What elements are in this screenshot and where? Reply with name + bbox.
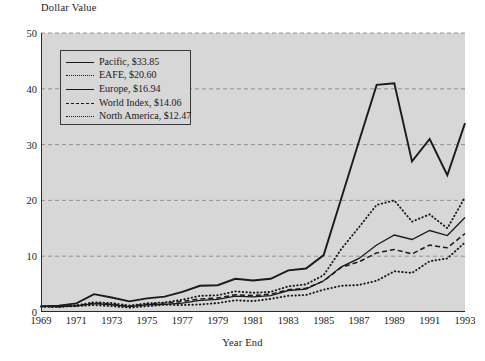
legend-item: Pacific, $33.85 (66, 55, 185, 69)
x-tick-1985: 1985 (313, 315, 334, 326)
line-chart: Dollar Value 01020304050 196919711973197… (0, 0, 485, 361)
legend-line-swatch-icon (66, 111, 94, 121)
y-tick-20: 20 (13, 195, 37, 206)
legend-line-swatch-icon (66, 70, 94, 80)
x-tick-1973: 1973 (101, 315, 122, 326)
x-tick-1975: 1975 (137, 315, 158, 326)
x-tick-1993: 1993 (455, 315, 476, 326)
x-tick-1989: 1989 (384, 315, 405, 326)
x-tick-1969: 1969 (31, 315, 52, 326)
legend-line-swatch-icon (66, 57, 94, 67)
legend-item-label: World Index, $14.06 (99, 98, 182, 108)
legend-item: EAFE, $20.60 (66, 69, 185, 83)
legend-item: World Index, $14.06 (66, 96, 185, 110)
legend: Pacific, $33.85EAFE, $20.60Europe, $16.9… (60, 50, 191, 125)
legend-item-label: Europe, $16.94 (99, 84, 160, 94)
legend-line-swatch-icon (66, 84, 94, 94)
y-tick-40: 40 (13, 83, 37, 94)
legend-item-label: North America, $12.47 (99, 111, 191, 121)
x-tick-1977: 1977 (172, 315, 193, 326)
x-tick-1971: 1971 (66, 315, 87, 326)
x-tick-1981: 1981 (243, 315, 264, 326)
y-tick-10: 10 (13, 251, 37, 262)
legend-line-swatch-icon (66, 98, 94, 108)
x-tick-1983: 1983 (278, 315, 299, 326)
x-axis-title: Year End (0, 337, 485, 348)
x-tick-1979: 1979 (207, 315, 228, 326)
legend-item-label: EAFE, $20.60 (99, 70, 157, 80)
legend-item: Europe, $16.94 (66, 82, 185, 96)
y-tick-30: 30 (13, 139, 37, 150)
y-tick-50: 50 (13, 28, 37, 39)
x-tick-1987: 1987 (349, 315, 370, 326)
legend-item: North America, $12.47 (66, 109, 185, 123)
x-tick-1991: 1991 (419, 315, 440, 326)
legend-item-label: Pacific, $33.85 (99, 57, 159, 67)
